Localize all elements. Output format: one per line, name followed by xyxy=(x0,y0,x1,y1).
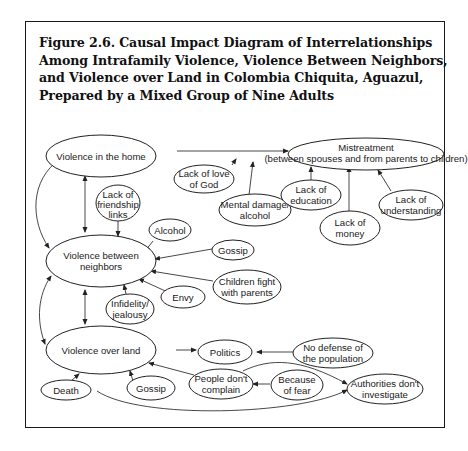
svg-text:jealousy: jealousy xyxy=(111,309,147,320)
svg-text:the population: the population xyxy=(303,353,363,364)
svg-text:Violence over land: Violence over land xyxy=(62,345,141,356)
edge-neighbors-land-curved xyxy=(39,276,51,344)
node-envy: Envy xyxy=(161,286,205,308)
svg-text:Violence between: Violence between xyxy=(63,250,139,261)
edge-children-neighbors xyxy=(151,271,213,281)
node-mental-damage: Mental damage/ alcohol xyxy=(219,194,291,226)
svg-text:money: money xyxy=(336,228,365,239)
node-authorities: Authorities don't investigate xyxy=(347,374,423,404)
svg-text:Death: Death xyxy=(53,385,79,396)
node-violence-neighbors: Violence between neighbors xyxy=(46,235,156,287)
node-mistreatment: Mistreatment (between spouses and from p… xyxy=(264,138,467,170)
svg-text:No defense of: No defense of xyxy=(303,342,363,353)
svg-text:investigate: investigate xyxy=(362,389,408,400)
node-lack-understanding: Lack of understanding xyxy=(379,190,443,220)
svg-text:Politics: Politics xyxy=(210,347,241,358)
svg-text:Infidelity/: Infidelity/ xyxy=(111,298,149,309)
edge-infidelity-neighbors xyxy=(124,285,126,294)
svg-text:Envy: Envy xyxy=(172,292,194,303)
edge-home-neighbors-curved xyxy=(36,159,60,248)
edge-complain-land xyxy=(149,363,194,375)
svg-text:Gossip: Gossip xyxy=(136,383,166,394)
node-people-dont-complain: People don't complain xyxy=(189,369,253,399)
svg-text:Lack of: Lack of xyxy=(396,194,427,205)
svg-text:complain: complain xyxy=(202,384,240,395)
node-children-fight: Children fight with parents xyxy=(213,270,281,304)
node-gossip-neighbors: Gossip xyxy=(212,240,254,260)
edge-mental-mistreatment xyxy=(249,162,253,195)
svg-text:Lack of love: Lack of love xyxy=(178,168,229,179)
node-lack-friendship: Lack of friendship links xyxy=(96,185,140,221)
svg-text:education: education xyxy=(290,195,332,206)
svg-text:alcohol: alcohol xyxy=(240,210,270,221)
edge-understanding-mistreatment xyxy=(378,170,391,191)
node-lack-love-god: Lack of love of God xyxy=(174,165,234,193)
svg-text:Mental damage/: Mental damage/ xyxy=(221,199,290,210)
svg-text:Mistreatment: Mistreatment xyxy=(338,142,394,153)
svg-text:People don't: People don't xyxy=(194,373,247,384)
svg-text:Children fight: Children fight xyxy=(219,276,276,287)
svg-text:neighbors: neighbors xyxy=(80,261,122,272)
svg-text:Lack of: Lack of xyxy=(296,184,327,195)
svg-text:Violence in the home: Violence in the home xyxy=(56,151,145,162)
node-no-defense: No defense of the population xyxy=(293,338,373,368)
node-gossip-land: Gossip xyxy=(127,376,175,400)
svg-text:of fear: of fear xyxy=(283,385,311,396)
node-because-fear: Because of fear xyxy=(271,370,323,400)
edge-gossip-land xyxy=(130,371,133,381)
node-politics: Politics xyxy=(198,340,252,364)
svg-text:links: links xyxy=(108,209,127,220)
svg-text:Lack of: Lack of xyxy=(335,217,366,228)
svg-text:Because: Because xyxy=(278,374,315,385)
node-violence-home: Violence in the home xyxy=(46,135,156,177)
svg-text:with parents: with parents xyxy=(220,287,273,298)
svg-text:of God: of God xyxy=(190,179,219,190)
svg-text:understanding: understanding xyxy=(381,205,442,216)
node-death: Death xyxy=(41,380,91,400)
edge-love-mistreatment xyxy=(232,159,236,165)
svg-text:Authorities don't: Authorities don't xyxy=(351,378,420,389)
node-alcohol: Alcohol xyxy=(149,219,191,241)
node-infidelity: Infidelity/ jealousy xyxy=(106,294,154,324)
node-lack-money: Lack of money xyxy=(320,211,380,245)
svg-text:Gossip: Gossip xyxy=(218,245,248,256)
node-violence-land: Violence over land xyxy=(46,326,156,374)
svg-text:(between spouses and from pare: (between spouses and from parents to chi… xyxy=(264,153,467,164)
svg-text:Alcohol: Alcohol xyxy=(154,225,185,236)
edge-gossip-neighbors xyxy=(155,249,212,259)
causal-diagram: Violence in the home Mistreatment (betwe… xyxy=(0,0,468,451)
node-lack-education: Lack of education xyxy=(281,180,341,210)
